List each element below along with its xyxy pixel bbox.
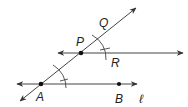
point-p — [79, 51, 84, 56]
label-a: A — [35, 90, 44, 104]
label-p: P — [76, 35, 84, 49]
label-q: Q — [99, 16, 108, 30]
transversal-line — [20, 8, 136, 101]
arc-at-p — [92, 35, 106, 60]
geometry-diagram: Q P R A B ℓ — [0, 0, 188, 107]
arc-at-a — [53, 65, 66, 88]
label-b: B — [115, 92, 123, 106]
arc-tick-a — [60, 79, 68, 81]
point-a — [39, 82, 44, 87]
label-line-l: ℓ — [139, 92, 144, 106]
point-b — [117, 82, 121, 86]
label-r: R — [111, 56, 120, 70]
